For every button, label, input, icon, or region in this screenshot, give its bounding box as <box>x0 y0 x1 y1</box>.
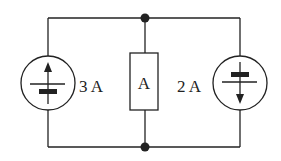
top-junction-dot <box>141 14 150 23</box>
bottom-junction-dot <box>141 143 150 152</box>
circuit-diagram: 3 A A 2 A <box>0 0 281 161</box>
ammeter-label: A <box>138 74 151 93</box>
left-source-value: 3 A <box>79 77 104 96</box>
arrow-up-icon <box>44 62 52 72</box>
right-source-value: 2 A <box>177 77 202 96</box>
ammeter: A <box>130 53 158 110</box>
circuit-svg: 3 A A 2 A <box>0 0 281 161</box>
arrow-down-icon <box>236 94 244 104</box>
left-current-source <box>21 56 75 110</box>
right-current-source <box>213 56 267 110</box>
